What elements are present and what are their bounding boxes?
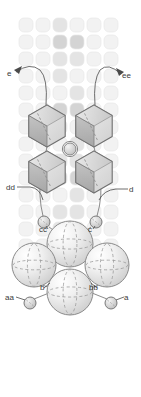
- leader-aa: [16, 297, 25, 300]
- lattice-cell: [70, 69, 84, 83]
- lattice-cell: [19, 222, 33, 236]
- label-bb: bb: [89, 283, 98, 292]
- lattice-cell: [104, 52, 118, 66]
- lattice-cell: [104, 35, 118, 49]
- label-a: a: [124, 293, 129, 302]
- lattice-cell: [19, 86, 33, 100]
- lattice-cell: [104, 222, 118, 236]
- lattice-cell: [19, 137, 33, 151]
- lattice-cell: [87, 86, 101, 100]
- label-aa: aa: [5, 293, 14, 302]
- label-b: b: [40, 283, 45, 292]
- label-e: e: [7, 69, 12, 78]
- central-small-sphere: [62, 141, 77, 156]
- lattice-cell: [87, 35, 101, 49]
- lattice-cell: [87, 52, 101, 66]
- sphere-center-lower: [47, 269, 93, 315]
- lattice-cell: [36, 86, 50, 100]
- lattice-cell: [36, 69, 50, 83]
- lattice-cell: [53, 188, 67, 202]
- sphere-body: [12, 243, 56, 287]
- sphere-body: [85, 243, 129, 287]
- label-dd: dd: [6, 183, 15, 192]
- lattice-cell: [53, 18, 67, 32]
- lattice-cell: [19, 18, 33, 32]
- lattice-cell: [104, 18, 118, 32]
- lattice-cell: [53, 52, 67, 66]
- lattice-cell: [19, 69, 33, 83]
- lattice-cell: [87, 18, 101, 32]
- sphere-left: [12, 243, 56, 287]
- lattice-cell: [53, 86, 67, 100]
- lattice-cell: [70, 205, 84, 219]
- lattice-cell: [19, 188, 33, 202]
- structure-canvas: eeedddcccbbbaaa: [0, 0, 141, 397]
- lattice-cell: [53, 35, 67, 49]
- lattice-cell: [104, 69, 118, 83]
- lattice-cell: [70, 18, 84, 32]
- lattice-cell: [19, 205, 33, 219]
- sphere-body: [47, 269, 93, 315]
- lattice-cell: [19, 52, 33, 66]
- sphere-right: [85, 243, 129, 287]
- lattice-cell: [53, 205, 67, 219]
- crystal-structure-figure: eeedddcccbbbaaa: [0, 0, 141, 397]
- label-cc: cc: [39, 225, 47, 234]
- lattice-cell: [104, 205, 118, 219]
- lattice-cell: [70, 188, 84, 202]
- leader-a: [116, 297, 124, 300]
- lattice-cell: [53, 69, 67, 83]
- label-d: d: [129, 185, 133, 194]
- lattice-cell: [70, 52, 84, 66]
- lattice-cell: [104, 86, 118, 100]
- lattice-cell: [36, 18, 50, 32]
- label-c: c: [88, 225, 92, 234]
- lattice-cell: [36, 35, 50, 49]
- small-sphere-center: [64, 143, 76, 155]
- lattice-cell: [36, 52, 50, 66]
- lattice-cell: [19, 35, 33, 49]
- lattice-cell: [70, 35, 84, 49]
- label-ee: ee: [122, 71, 131, 80]
- lattice-cell: [70, 86, 84, 100]
- bond-a-to-lower: [92, 293, 107, 299]
